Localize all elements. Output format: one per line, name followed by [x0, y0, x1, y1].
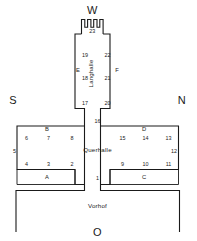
zone-label-a: A	[45, 174, 49, 180]
zone-label-f: F	[115, 67, 119, 73]
room-number-2: 2	[71, 161, 74, 167]
room-number-3: 3	[47, 161, 50, 167]
zone-label-c: C	[142, 174, 146, 180]
room-number-6: 6	[25, 135, 28, 141]
room-number-7: 7	[47, 135, 50, 141]
room-number-12: 12	[171, 148, 177, 154]
compass-west-label: W	[87, 4, 98, 16]
room-number-11: 11	[166, 161, 172, 167]
room-number-5: 5	[13, 148, 16, 154]
room-number-20: 20	[105, 100, 111, 106]
zone-label-b: B	[45, 126, 49, 132]
room-number-1: 1	[96, 175, 99, 181]
zone-label-d: D	[142, 126, 146, 132]
room-number-10: 10	[143, 161, 149, 167]
room-number-18: 18	[82, 75, 88, 81]
zone-label-e: E	[76, 67, 80, 73]
room-number-8: 8	[71, 135, 74, 141]
vorhof-label: Vorhof	[88, 202, 107, 209]
room-number-14: 14	[143, 135, 149, 141]
room-number-23: 23	[89, 28, 95, 34]
room-number-9: 9	[121, 161, 124, 167]
room-number-13: 13	[166, 135, 172, 141]
langhalle-label: Langhalle	[88, 59, 94, 87]
room-number-22: 22	[105, 52, 111, 58]
compass-north-label: N	[178, 94, 186, 106]
floor-plan-diagram: W S N O Langhalle Querhalle Vorhof B D A…	[0, 0, 197, 241]
room-number-19: 19	[82, 52, 88, 58]
room-number-4: 4	[25, 161, 28, 167]
room-number-16: 16	[95, 118, 101, 124]
room-number-17: 17	[82, 100, 88, 106]
compass-south-label: S	[9, 94, 17, 106]
compass-east-label: O	[93, 226, 102, 238]
room-number-15: 15	[120, 135, 126, 141]
querhalle-label: Querhalle	[83, 146, 112, 153]
floor-plan-svg: W S N O Langhalle Querhalle Vorhof B D A…	[0, 0, 197, 241]
room-number-21: 21	[105, 75, 111, 81]
